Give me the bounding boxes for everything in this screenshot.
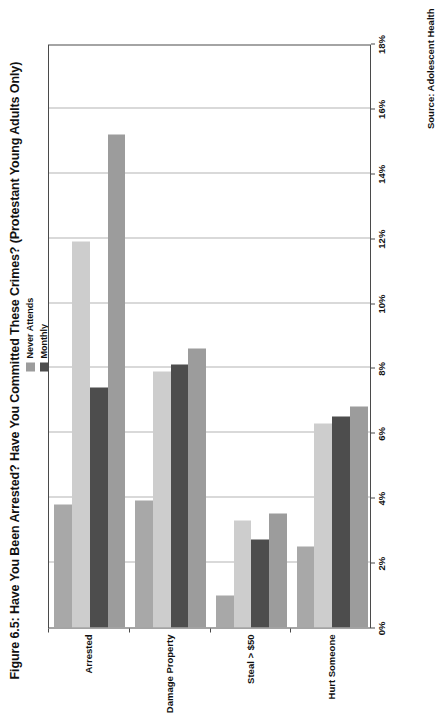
bar [269, 513, 287, 627]
category-axis-tick [290, 628, 291, 632]
value-axis-tick [371, 173, 375, 174]
bar [171, 364, 189, 627]
bar [135, 500, 153, 627]
bar-group [49, 45, 130, 627]
value-axis-tick [371, 43, 375, 44]
value-axis-tick [371, 562, 375, 563]
bar [54, 504, 72, 627]
bar-group [130, 45, 211, 627]
category-axis-tick [129, 628, 130, 632]
category-axis-tick [48, 628, 49, 632]
value-axis-tick [371, 367, 375, 368]
value-axis-tick-label: 10% [376, 294, 387, 313]
bar [314, 423, 332, 627]
value-axis-tick [371, 497, 375, 498]
bar [153, 371, 171, 627]
bar [108, 134, 126, 627]
value-axis-tick-label: 2% [376, 556, 387, 570]
bar [90, 387, 108, 627]
value-axis-tick [371, 238, 375, 239]
bar [297, 546, 315, 627]
bar [332, 416, 350, 627]
plot-area [48, 44, 371, 628]
source-note: Source: Adolescent Health [425, 8, 436, 129]
value-axis-tick-label: 0% [376, 621, 387, 635]
legend-item-label: Never Attends [26, 297, 35, 358]
value-axis-tick-label: 6% [376, 426, 387, 440]
category-axis-tick [210, 628, 211, 632]
value-axis-tick-label: 16% [376, 99, 387, 118]
bar [188, 348, 206, 627]
value-axis-tick-label: 12% [376, 229, 387, 248]
chart-title: Figure 6.5: Have You Been Arrested? Have… [8, 61, 22, 679]
bar [72, 241, 90, 627]
bar-group [211, 45, 292, 627]
value-axis-tick [371, 432, 375, 433]
category-axis-label: Hurt Someone [325, 634, 336, 699]
plot-wrapper [48, 44, 371, 628]
value-axis-tick [371, 303, 375, 304]
bar [251, 539, 269, 627]
category-axis-label: Arrested [83, 634, 94, 673]
legend-swatch-icon [26, 362, 35, 371]
category-axis-label: Damage Property [164, 634, 175, 713]
value-axis-tick-label: 8% [376, 362, 387, 376]
bar [350, 406, 368, 627]
value-axis: 0%2%4%6%8%10%12%14%16%18% [371, 44, 397, 628]
value-axis-tick [371, 627, 375, 628]
legend-item: Never Attends [24, 297, 36, 371]
value-axis-tick-label: 14% [376, 164, 387, 183]
value-axis-tick-label: 4% [376, 491, 387, 505]
bar-group [291, 45, 371, 627]
category-axis: ArrestedDamage PropertySteal > $50Hurt S… [48, 628, 371, 689]
value-axis-tick [371, 108, 375, 109]
bar [234, 520, 252, 627]
category-axis-label: Steal > $50 [244, 634, 255, 683]
bar [216, 595, 234, 627]
value-axis-tick-label: 18% [376, 34, 387, 53]
